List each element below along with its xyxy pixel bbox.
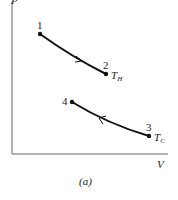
th-subscript: H bbox=[117, 75, 122, 83]
point-1 bbox=[38, 32, 42, 36]
point-1-label: 1 bbox=[37, 20, 43, 31]
point-2 bbox=[104, 72, 108, 76]
th-label: TH bbox=[111, 70, 122, 83]
isotherm-hot-curve bbox=[40, 34, 106, 74]
pv-diagram: P V 1 2 3 4 TH TC (a) bbox=[0, 0, 178, 200]
tc-label: TC bbox=[154, 132, 165, 145]
p-axis-label: P bbox=[11, 0, 18, 6]
isotherm-cold-curve bbox=[72, 102, 149, 136]
v-axis-label: V bbox=[157, 159, 164, 170]
point-4-label: 4 bbox=[62, 96, 68, 107]
diagram-canvas bbox=[0, 0, 178, 200]
point-3 bbox=[147, 134, 151, 138]
point-2-label: 2 bbox=[103, 60, 109, 71]
point-3-label: 3 bbox=[146, 122, 152, 133]
tc-subscript: C bbox=[160, 137, 165, 145]
point-4 bbox=[70, 100, 74, 104]
figure-caption: (a) bbox=[79, 176, 92, 187]
